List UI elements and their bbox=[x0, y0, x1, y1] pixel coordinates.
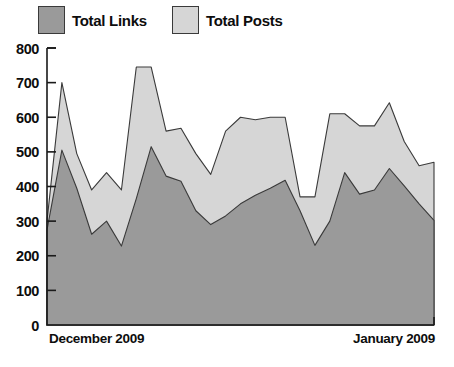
y-tick-label-700: 700 bbox=[16, 75, 39, 91]
stacked-area-chart: Total Links Total Posts 8007006005004003… bbox=[0, 0, 454, 367]
y-tick-label-0: 0 bbox=[31, 318, 39, 334]
chart-series-areas bbox=[47, 67, 434, 325]
y-tick-label-100: 100 bbox=[16, 283, 39, 299]
x-axis-label-right: January 2009 bbox=[353, 331, 435, 346]
y-tick-label-400: 400 bbox=[16, 179, 39, 195]
y-tick-label-500: 500 bbox=[16, 144, 39, 160]
chart-y-tick-labels: 8007006005004003002001000 bbox=[16, 41, 39, 334]
y-tick-label-800: 800 bbox=[16, 41, 39, 57]
chart-plot-area: 8007006005004003002001000 December 2009J… bbox=[0, 0, 454, 367]
y-tick-label-600: 600 bbox=[16, 110, 39, 126]
y-tick-label-200: 200 bbox=[16, 248, 39, 264]
y-tick-label-300: 300 bbox=[16, 214, 39, 230]
x-axis-label-left: December 2009 bbox=[49, 331, 144, 346]
chart-x-axis-labels: December 2009January 2009 bbox=[49, 331, 435, 346]
